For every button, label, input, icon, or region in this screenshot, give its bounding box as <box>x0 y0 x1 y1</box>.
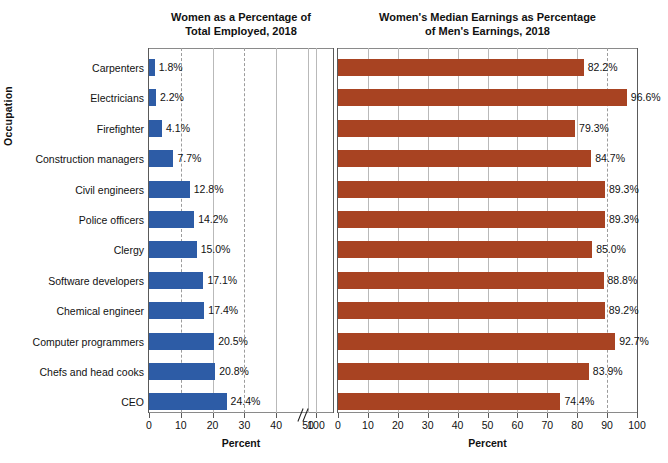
right-bar-value-label: 89.3% <box>609 211 639 228</box>
category-label: Electricians <box>0 92 144 104</box>
category-label: Civil engineers <box>0 184 144 196</box>
right-bar <box>338 393 560 410</box>
left-bar <box>149 150 173 167</box>
right-x-tick-label: 20 <box>383 419 413 431</box>
category-label: Clergy <box>0 244 144 256</box>
left-bar <box>149 89 156 106</box>
left-bar-value-label: 4.1% <box>166 120 190 137</box>
right-bar-value-label: 74.4% <box>564 393 594 410</box>
right-bar <box>338 150 591 167</box>
category-label: Police officers <box>0 214 144 226</box>
right-bar <box>338 302 605 319</box>
left-bar <box>149 393 227 410</box>
left-frame-top <box>148 48 334 49</box>
left-bar-value-label: 2.2% <box>160 89 184 106</box>
left-x-tick <box>308 413 309 418</box>
right-bar-value-label: 83.9% <box>593 363 623 380</box>
left-bar-value-label: 12.8% <box>194 181 224 198</box>
right-bar-value-label: 79.3% <box>579 120 609 137</box>
right-bar <box>338 59 584 76</box>
category-label: Software developers <box>0 275 144 287</box>
left-bar-value-label: 17.1% <box>207 272 237 289</box>
right-bar <box>338 363 589 380</box>
left-bar-value-label: 24.4% <box>231 393 261 410</box>
right-bar <box>338 272 604 289</box>
right-x-tick-label: 80 <box>562 419 592 431</box>
left-bar-value-label: 7.7% <box>177 150 201 167</box>
right-x-tick-label: 10 <box>353 419 383 431</box>
category-label: Construction managers <box>0 153 144 165</box>
left-gridline <box>244 48 245 413</box>
right-panel-title-line2: of Men's Earnings, 2018 <box>337 24 638 38</box>
category-label: Chefs and head cooks <box>0 366 144 378</box>
left-x-axis-title: Percent <box>148 437 334 449</box>
left-x-tick-label: 20 <box>198 419 228 431</box>
right-x-tick <box>637 413 638 418</box>
right-bar-value-label: 85.0% <box>596 241 626 258</box>
left-bar <box>149 241 197 258</box>
right-x-tick <box>398 413 399 418</box>
category-label: Computer programmers <box>0 336 144 348</box>
left-bar-value-label: 20.5% <box>218 333 248 350</box>
left-plot-area: 1.8%2.2%4.1%7.7%12.8%14.2%15.0%17.1%17.4… <box>148 48 334 413</box>
right-x-tick <box>368 413 369 418</box>
right-x-tick <box>547 413 548 418</box>
left-x-tick <box>181 413 182 418</box>
right-bar <box>338 333 615 350</box>
right-bar-value-label: 89.3% <box>609 181 639 198</box>
right-panel-title-line1: Women's Median Earnings as Percentage <box>337 10 638 24</box>
left-gridline <box>316 48 317 413</box>
right-x-tick-label: 70 <box>532 419 562 431</box>
right-x-tick-label: 40 <box>443 419 473 431</box>
right-x-tick-label: 50 <box>473 419 503 431</box>
left-bar <box>149 363 215 380</box>
left-x-tick <box>316 413 317 418</box>
right-x-tick <box>338 413 339 418</box>
left-x-tick <box>244 413 245 418</box>
right-x-axis-title: Percent <box>337 437 638 449</box>
right-bar-value-label: 96.6% <box>631 89 661 106</box>
right-bar-value-label: 84.7% <box>595 150 625 167</box>
left-bar <box>149 211 194 228</box>
left-x-tick <box>213 413 214 418</box>
right-plot-area: 82.2%96.6%79.3%84.7%89.3%89.3%85.0%88.8%… <box>337 48 638 413</box>
right-bar <box>338 241 592 258</box>
left-x-tick-label: 40 <box>261 419 291 431</box>
right-bar-value-label: 82.2% <box>588 59 618 76</box>
left-gridline <box>308 48 309 413</box>
left-gridline <box>213 48 214 413</box>
left-frame-bottom <box>148 412 334 413</box>
right-x-tick-label: 100 <box>622 419 652 431</box>
left-bar-value-label: 17.4% <box>208 302 238 319</box>
left-panel-title-line2: Total Employed, 2018 <box>148 24 334 38</box>
right-x-tick-label: 0 <box>323 419 353 431</box>
left-x-tick <box>149 413 150 418</box>
left-bar-value-label: 20.8% <box>219 363 249 380</box>
right-x-tick-label: 60 <box>502 419 532 431</box>
right-panel-title: Women's Median Earnings as Percentage of… <box>337 10 638 38</box>
right-x-tick <box>577 413 578 418</box>
left-x-tick-label: 30 <box>229 419 259 431</box>
left-bar <box>149 59 155 76</box>
category-label: Firefighter <box>0 123 144 135</box>
right-bar <box>338 211 605 228</box>
right-bar-value-label: 89.2% <box>609 302 639 319</box>
right-x-tick <box>517 413 518 418</box>
left-bar <box>149 333 214 350</box>
left-bar-value-label: 15.0% <box>201 241 231 258</box>
left-bar-value-label: 1.8% <box>159 59 183 76</box>
right-bar-value-label: 88.8% <box>608 272 638 289</box>
right-x-tick-label: 30 <box>413 419 443 431</box>
left-bar-value-label: 14.2% <box>198 211 228 228</box>
left-bar <box>149 302 204 319</box>
category-label-column: CarpentersElectriciansFirefighterConstru… <box>0 48 144 413</box>
category-label: Chemical engineer <box>0 305 144 317</box>
left-panel-title-line1: Women as a Percentage of <box>148 10 334 24</box>
left-gridline <box>276 48 277 413</box>
dual-bar-chart-figure: Occupation Women as a Percentage of Tota… <box>0 0 668 463</box>
left-frame-right <box>333 48 334 413</box>
right-x-tick <box>458 413 459 418</box>
right-bar-value-label: 92.7% <box>619 333 649 350</box>
left-x-tick-label: 0 <box>134 419 164 431</box>
left-panel-title: Women as a Percentage of Total Employed,… <box>148 10 334 38</box>
